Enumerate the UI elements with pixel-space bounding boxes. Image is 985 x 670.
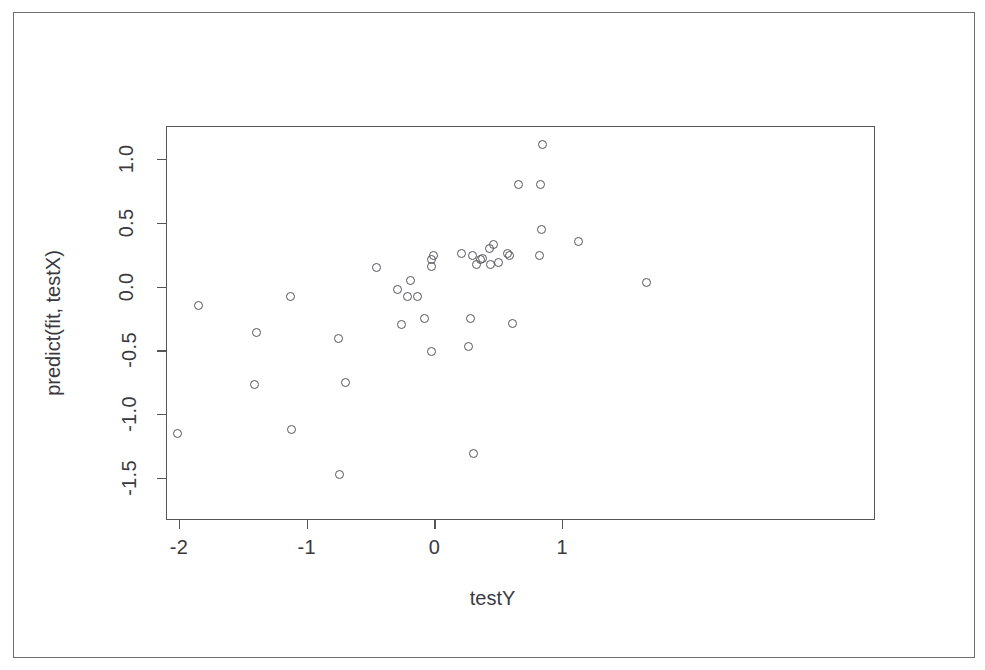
x-axis-tick (434, 520, 435, 529)
y-axis-title: predict(fit, testX) (42, 250, 65, 396)
x-axis-tick (179, 520, 180, 529)
x-axis-tick-label: 0 (429, 536, 440, 559)
y-axis-tick (157, 287, 166, 288)
y-axis-tick-label: 0.5 (115, 208, 138, 237)
y-axis-tick (157, 414, 166, 415)
y-axis-tick-label: 0.0 (115, 272, 138, 301)
x-axis-tick-label: -2 (170, 536, 188, 559)
x-axis-title: testY (0, 587, 985, 610)
scatter-plot-figure: -2-101 1.00.50.0-0.5-1.0-1.5 testY predi… (0, 0, 985, 670)
y-axis-tick (157, 223, 166, 224)
y-axis-tick (157, 159, 166, 160)
y-axis-tick (157, 478, 166, 479)
y-axis-tick-label: -1.0 (118, 396, 141, 432)
x-axis-tick-label: 1 (556, 536, 567, 559)
plot-panel-border (166, 126, 875, 520)
y-axis-tick-label: 1.0 (115, 145, 138, 174)
screenshot-root: -2-101 1.00.50.0-0.5-1.0-1.5 testY predi… (0, 0, 985, 670)
x-axis-tick (562, 520, 563, 529)
y-axis-tick (157, 350, 166, 351)
x-axis-tick-label: -1 (297, 536, 315, 559)
x-axis-tick (307, 520, 308, 529)
y-axis-tick-label: -0.5 (118, 333, 141, 369)
y-axis-tick-label: -1.5 (118, 460, 141, 496)
